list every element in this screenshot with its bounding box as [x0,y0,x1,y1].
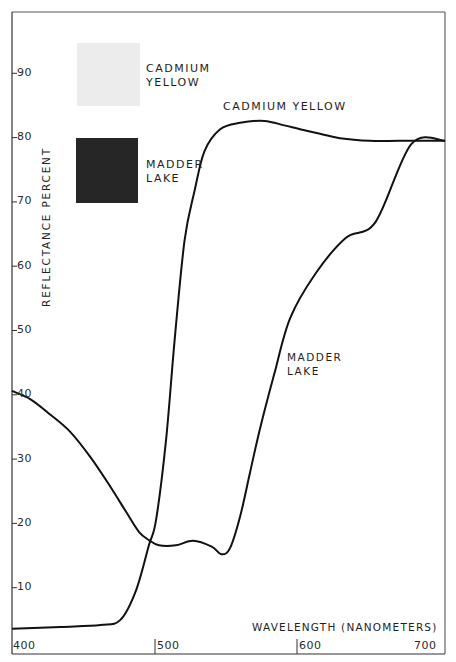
y-tick-label: 70 [17,194,32,207]
x-axis-label: WAVELENGTH (NANOMETERS) [252,620,438,634]
y-tick-label: 10 [17,580,32,593]
legend-cadmium-line2: YELLOW [146,76,210,90]
x-tick-label-700: 700 [414,639,437,652]
y-tick-label: 60 [17,259,32,272]
annotation-cadmium-yellow: CADMIUM YELLOW [223,100,347,114]
y-tick-label: 30 [17,452,32,465]
x-tick-label-600: 600 [299,639,322,652]
x-tick-label-400: 400 [13,639,36,652]
y-tick-label: 90 [17,66,32,79]
legend-madder-line1: MADDER [146,158,204,172]
y-tick-label: 50 [17,323,32,336]
legend-cadmium-line1: CADMIUM [146,62,210,76]
legend-madder-line2: LAKE [146,172,204,186]
y-axis-label: REFLECTANCE PERCENT [40,147,52,307]
x-tick-label-500: 500 [157,639,180,652]
y-tick-label: 80 [17,130,32,143]
y-tick-label: 20 [17,516,32,529]
legend-madder-lake-label: MADDER LAKE [146,158,204,186]
legend-cadmium-yellow-label: CADMIUM YELLOW [146,62,210,90]
annotation-lake: LAKE [287,364,320,378]
cadmium-yellow-swatch [77,43,140,106]
y-tick-label: 40 [17,387,32,400]
madder-lake-swatch [76,138,138,203]
annotation-madder: MADDER [287,350,342,364]
